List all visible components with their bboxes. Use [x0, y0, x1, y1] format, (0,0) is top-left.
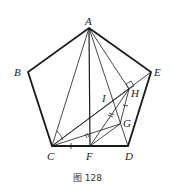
label-B: B: [14, 66, 21, 78]
angle-arc-C: [57, 131, 63, 140]
label-G: G: [123, 117, 131, 129]
segment-AF: [89, 28, 90, 146]
figure-caption: 图 128: [73, 173, 102, 183]
label-H: H: [130, 87, 140, 99]
segment-AC: [52, 28, 89, 146]
label-E: E: [153, 66, 161, 78]
label-D: D: [124, 150, 133, 162]
label-C: C: [47, 150, 55, 162]
segment-CG: [52, 124, 120, 146]
segment-FG: [90, 124, 120, 146]
geometry-diagram: A B C D E F G H I 图 128: [0, 0, 173, 186]
double-tick-FG-2: [87, 133, 89, 137]
label-F: F: [85, 150, 93, 162]
label-I: I: [101, 92, 107, 104]
label-A: A: [84, 15, 92, 27]
tick-HG: [123, 105, 128, 106]
segment-AH: [89, 28, 129, 89]
